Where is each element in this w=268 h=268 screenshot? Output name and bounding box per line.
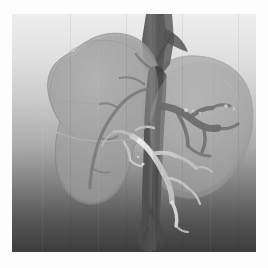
render-grain-overlay [12,14,256,252]
volume-render-svg [12,14,256,252]
figure-frame: 3d-volume-rendering abdominal organs wit… [0,0,268,268]
volume-render-canvas [12,14,256,252]
